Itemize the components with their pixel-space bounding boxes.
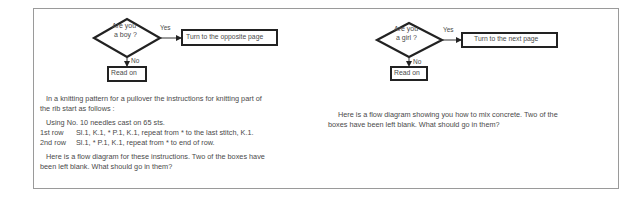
- yes-box-text: Turn to the opposite page: [186, 32, 263, 42]
- yes-label: Yes: [160, 23, 171, 33]
- decision-line2: a girl ?: [396, 33, 417, 43]
- decision-line2: a boy ?: [114, 30, 137, 40]
- row-2-text: Sl.1, * P.1, K.1, repeat from * to end o…: [76, 138, 215, 148]
- row-1-text: Sl.1, K.1, * P.1, K.1, repeat from * to …: [76, 128, 254, 138]
- intro-line1: In a knitting pattern for a pullover the…: [46, 94, 262, 104]
- yes-label: Yes: [443, 25, 454, 35]
- intro-line2: the rib start as follows :: [40, 104, 115, 114]
- row-1-label: 1st row: [40, 128, 64, 138]
- yes-box-text: Turn to the next page: [474, 34, 538, 44]
- question-line1: Here is a flow diagram for these instruc…: [46, 152, 265, 162]
- row-2-label: 2nd row: [40, 138, 66, 148]
- cast-on-line: Using No. 10 needles cast on 65 sts.: [46, 118, 165, 128]
- question-line2: been left blank. What should go in them?: [40, 162, 172, 172]
- right-question-line2: boxes have been left blank. What should …: [328, 120, 500, 130]
- right-question-line1: Here is a flow diagram showing you how t…: [338, 110, 558, 120]
- no-label: No: [131, 56, 139, 66]
- no-box-text: Read on: [394, 68, 420, 78]
- no-box-text: Read on: [111, 68, 137, 78]
- no-label: No: [413, 57, 421, 67]
